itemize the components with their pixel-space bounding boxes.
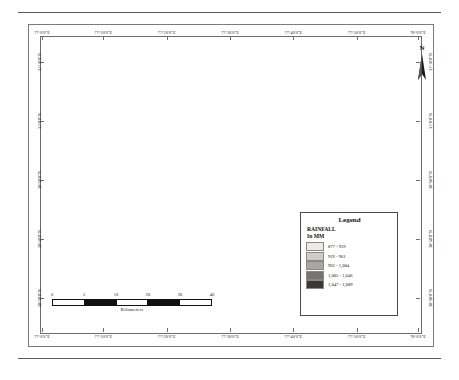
scale-bar-ticks: 0 5 10 20 30 40 [52, 292, 212, 299]
scale-bar-graphic [52, 299, 212, 306]
legend-swatch [306, 271, 324, 280]
scale-tick: 40 [210, 292, 214, 297]
scale-segment [180, 300, 211, 305]
scale-segment [117, 300, 149, 305]
graticule-tick-right [416, 239, 420, 240]
latitude-label-left: 30°40'0"N [37, 230, 42, 248]
scale-tick: 0 [51, 292, 53, 297]
graticule-tick-bottom [293, 328, 294, 332]
latitude-label-right: 30°30'0"N [428, 289, 433, 307]
graticule-tick-top [167, 36, 168, 40]
north-arrow-label: N [411, 44, 433, 52]
graticule-tick-right [416, 121, 420, 122]
graticule-tick-bottom [103, 328, 104, 332]
legend-item-label: 877 - 919 [328, 244, 346, 249]
scale-bar-units: Kilometers [52, 307, 212, 312]
graticule-tick-bottom [42, 328, 43, 332]
latitude-label-right: 30°40'0"N [428, 230, 433, 248]
legend-item-label: 1,047 - 1,089 [328, 282, 353, 287]
legend-item: 1,005 - 1,046 [306, 271, 393, 281]
latitude-label-right: 31°0'0"N [428, 113, 433, 129]
graticule-tick-top [293, 36, 294, 40]
graticule-tick-bottom [167, 328, 168, 332]
graticule-tick-bottom [230, 328, 231, 332]
longitude-label-bottom: 77°50'0"E [348, 334, 366, 339]
legend-item: 919 - 961 [306, 252, 393, 262]
graticule-tick-top [42, 36, 43, 40]
longitude-label-bottom: 77°0'0"E [34, 334, 50, 339]
graticule-tick-bottom [357, 328, 358, 332]
scale-segment [85, 300, 117, 305]
legend-swatch [306, 242, 324, 251]
scale-tick: 30 [178, 292, 182, 297]
longitude-label-top: 77°30'0"E [221, 30, 239, 35]
map-figure: N Legend RAINFALL In MM 877 - 919 919 - … [0, 0, 459, 380]
legend-item: 1,047 - 1,089 [306, 280, 393, 290]
top-divider-rule [18, 12, 441, 13]
legend-title: Legend [306, 216, 393, 224]
graticule-tick-top [357, 36, 358, 40]
longitude-label-bottom: 77°30'0"E [221, 334, 239, 339]
legend-swatch [306, 261, 324, 270]
graticule-tick-top [418, 36, 419, 40]
graticule-tick-right [416, 180, 420, 181]
longitude-label-top: 77°50'0"E [348, 30, 366, 35]
latitude-label-left: 31°10'0"N [37, 53, 42, 71]
longitude-label-top: 77°20'0"E [158, 30, 176, 35]
legend-item-label: 962 - 1,004 [328, 263, 349, 268]
graticule-tick-top [103, 36, 104, 40]
legend-item-label: 1,005 - 1,046 [328, 273, 353, 278]
graticule-tick-bottom [418, 328, 419, 332]
scale-segment [148, 300, 180, 305]
legend-subtitle-units: In MM [307, 233, 393, 240]
longitude-label-bottom: 77°40'0"E [284, 334, 302, 339]
latitude-label-right: 31°10'0"N [428, 53, 433, 71]
legend-subtitle-rainfall: RAINFALL [307, 226, 393, 233]
latitude-label-left: 31°0'0"N [37, 113, 42, 129]
longitude-label-top: 78°0'0"E [410, 30, 426, 35]
graticule-tick-top [230, 36, 231, 40]
scale-tick: 20 [146, 292, 150, 297]
scale-bar: 0 5 10 20 30 40 Kilometers [52, 292, 212, 312]
latitude-label-right: 30°50'0"N [428, 171, 433, 189]
scale-tick: 10 [114, 292, 118, 297]
legend-item: 962 - 1,004 [306, 261, 393, 271]
graticule-tick-right [416, 298, 420, 299]
graticule-tick-right [416, 62, 420, 63]
latitude-label-left: 30°50'0"N [37, 171, 42, 189]
legend-box: Legend RAINFALL In MM 877 - 919 919 - 96… [300, 212, 398, 316]
legend-item: 877 - 919 [306, 242, 393, 252]
legend-items: 877 - 919 919 - 961 962 - 1,004 1,005 - … [306, 242, 393, 290]
legend-item-label: 919 - 961 [328, 254, 346, 259]
scale-segment [53, 300, 85, 305]
bottom-divider-rule [18, 358, 441, 359]
longitude-label-bottom: 77°20'0"E [158, 334, 176, 339]
latitude-label-left: 30°30'0"N [37, 289, 42, 307]
longitude-label-bottom: 77°10'0"E [94, 334, 112, 339]
scale-tick: 5 [83, 292, 85, 297]
longitude-label-top: 77°40'0"E [284, 30, 302, 35]
longitude-label-top: 77°10'0"E [94, 30, 112, 35]
longitude-label-bottom: 78°0'0"E [410, 334, 426, 339]
legend-swatch [306, 280, 324, 289]
legend-swatch [306, 252, 324, 261]
longitude-label-top: 77°0'0"E [34, 30, 50, 35]
